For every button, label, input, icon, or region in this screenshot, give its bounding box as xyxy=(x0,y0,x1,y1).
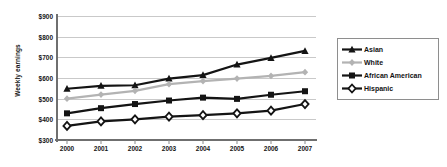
legend-swatch-triangle-icon xyxy=(341,44,363,55)
y-axis-title-text: Weekly earnings xyxy=(14,44,21,97)
plot-area: $900$800$700$600$500$400$300 20002001200… xyxy=(56,16,316,140)
legend-swatch-square-icon xyxy=(341,70,363,81)
x-axis-tick-label: 2004 xyxy=(196,145,210,152)
line-chart: $900$800$700$600$500$400$300 20002001200… xyxy=(30,8,320,158)
data-point-marker xyxy=(267,107,274,115)
y-axis-tick-label: $800 xyxy=(39,33,53,40)
data-point-marker xyxy=(302,88,308,94)
chart-screenshot: Weekly earnings $900$800$700$600$500$400… xyxy=(0,0,447,167)
legend-item-label: White xyxy=(364,59,383,66)
data-point-marker xyxy=(234,96,240,102)
series-asian xyxy=(63,47,308,92)
data-point-marker xyxy=(268,92,274,98)
x-axis-tick-mark xyxy=(305,140,306,144)
data-point-marker xyxy=(131,115,138,123)
x-axis-tick-label: 2000 xyxy=(60,145,74,152)
data-point-marker xyxy=(200,78,206,85)
x-axis-tick-label: 2003 xyxy=(162,145,176,152)
data-point-marker xyxy=(165,113,172,121)
y-axis-tick-label: $400 xyxy=(39,116,53,123)
chart-legend: AsianWhiteAfrican AmericanHispanic xyxy=(337,38,439,100)
x-axis-tick-label: 2005 xyxy=(230,145,244,152)
legend-swatch-diamond-open-icon xyxy=(341,83,363,94)
data-point-marker xyxy=(64,95,70,102)
data-point-marker xyxy=(199,111,206,119)
legend-item-hispanic[interactable]: Hispanic xyxy=(341,82,435,95)
data-point-marker xyxy=(200,95,206,101)
x-axis-tick-mark xyxy=(67,140,68,144)
data-point-marker xyxy=(132,87,138,94)
y-axis-title: Weekly earnings xyxy=(8,0,26,140)
series-layer xyxy=(56,16,316,140)
data-point-marker xyxy=(349,73,355,79)
data-point-marker xyxy=(348,85,355,93)
x-axis-tick-label: 2001 xyxy=(94,145,108,152)
y-axis-tick-label: $600 xyxy=(39,75,53,82)
x-axis-tick-label: 2007 xyxy=(298,145,312,152)
x-axis-tick-mark xyxy=(135,140,136,144)
data-point-marker xyxy=(233,109,240,117)
legend-item-african-american[interactable]: African American xyxy=(341,69,435,82)
series-hispanic xyxy=(63,100,308,130)
data-point-marker xyxy=(268,73,274,80)
x-axis-tick-label: 2006 xyxy=(264,145,278,152)
y-axis-tick-label: $700 xyxy=(39,54,53,61)
y-axis-tick-label: $500 xyxy=(39,95,53,102)
legend-item-label: African American xyxy=(364,72,422,79)
x-axis-tick-mark xyxy=(101,140,102,144)
x-axis-tick-mark xyxy=(237,140,238,144)
x-axis-tick-mark xyxy=(169,140,170,144)
data-point-marker xyxy=(98,105,104,111)
data-point-marker xyxy=(301,100,308,108)
x-axis-tick-mark xyxy=(271,140,272,144)
data-point-marker xyxy=(349,59,355,66)
legend-item-asian[interactable]: Asian xyxy=(341,43,435,56)
data-point-marker xyxy=(98,91,104,98)
data-point-marker xyxy=(63,122,70,130)
data-point-marker xyxy=(166,81,172,88)
y-axis-tick-label: $300 xyxy=(39,137,53,144)
data-point-marker xyxy=(302,69,308,76)
legend-item-white[interactable]: White xyxy=(341,56,435,69)
data-point-marker xyxy=(64,110,70,116)
data-point-marker xyxy=(132,101,138,107)
x-axis-tick-mark xyxy=(203,140,204,144)
y-axis-tick-label: $900 xyxy=(39,13,53,20)
legend-item-label: Hispanic xyxy=(364,85,393,92)
legend-swatch-diamond-icon xyxy=(341,57,363,68)
data-point-marker xyxy=(166,98,172,104)
legend-item-label: Asian xyxy=(364,46,383,53)
x-axis-tick-label: 2002 xyxy=(128,145,142,152)
data-point-marker xyxy=(97,117,104,125)
data-point-marker xyxy=(234,75,240,82)
